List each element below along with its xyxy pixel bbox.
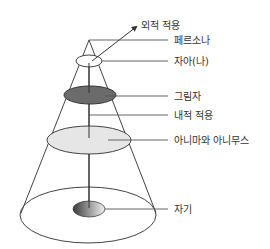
external-adaptation-arrow xyxy=(92,27,136,61)
label-anima-animus: 아니마와 아니무스 xyxy=(174,135,249,146)
label-external-adaptation: 외적 적용 xyxy=(141,20,180,31)
label-shadow: 그림자 xyxy=(174,91,201,102)
label-persona: 페르소나 xyxy=(174,35,210,46)
psyche-cone-diagram: 외적 적용 페르소나 자아(나) 그림자 내적 적용 아니마와 아니무스 자기 xyxy=(0,0,270,249)
label-ego: 자아(나) xyxy=(174,56,209,67)
shadow-ellipse xyxy=(64,86,116,104)
label-self: 자기 xyxy=(174,204,192,215)
label-internal-adaptation: 내적 적용 xyxy=(174,110,213,121)
leader-lines xyxy=(89,40,168,209)
